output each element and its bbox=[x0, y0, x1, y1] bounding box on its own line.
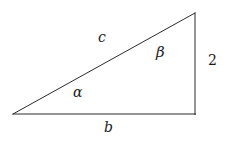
base-label: b bbox=[104, 120, 113, 134]
angle-alpha-label: α bbox=[73, 85, 82, 99]
angle-beta-label: β bbox=[156, 45, 165, 60]
hypotenuse-label: c bbox=[98, 30, 106, 44]
vertical-side-length-label: 2 bbox=[208, 53, 217, 67]
triangle-drawing bbox=[0, 0, 234, 144]
right-triangle-figure: c b 2 α β bbox=[0, 0, 234, 144]
